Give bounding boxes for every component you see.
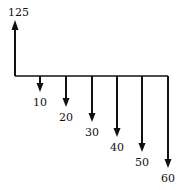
outflow-label: 20	[59, 111, 73, 124]
outflow-label: 30	[85, 126, 99, 139]
outflow-arrow: 40	[110, 76, 124, 154]
outflow-arrow: 20	[59, 76, 73, 124]
outflow-label: 10	[33, 96, 47, 109]
inflow-label: 125	[8, 6, 29, 19]
outflow-arrow: 30	[85, 76, 99, 139]
outflow-label: 50	[135, 156, 149, 169]
inflow-arrow: 125	[8, 6, 29, 76]
outflow-label: 60	[161, 172, 175, 185]
outflow-arrow: 60	[161, 76, 175, 185]
outflow-label: 40	[110, 141, 124, 154]
outflow-arrow: 50	[135, 76, 149, 169]
outflow-arrow: 10	[33, 76, 47, 109]
cash-flow-diagram: 125 102030405060	[0, 0, 179, 190]
